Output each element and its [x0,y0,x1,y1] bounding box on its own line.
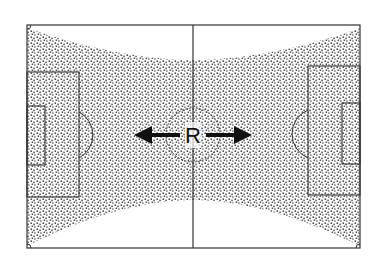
pitch-diagram: R [0,0,386,268]
referee-label: R [185,123,201,148]
